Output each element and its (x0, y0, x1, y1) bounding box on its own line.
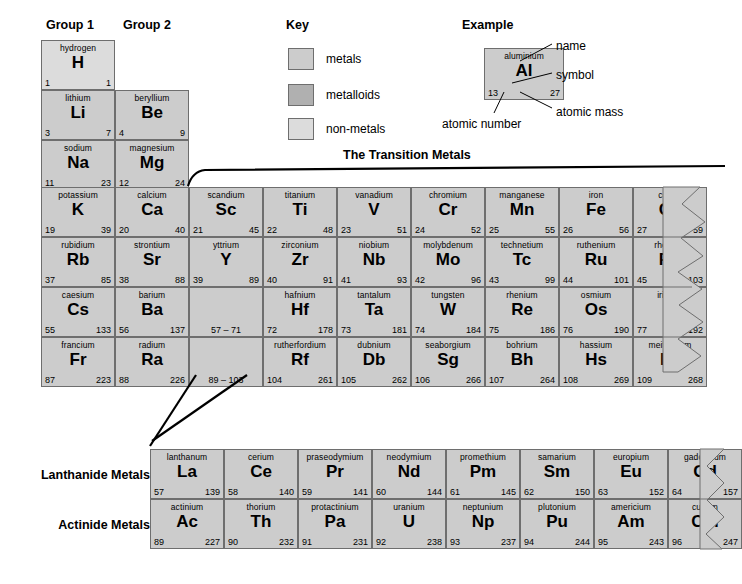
element-cell-Bh: bohriumBh107264 (485, 337, 559, 387)
element-range-label: 57 – 71 (190, 325, 262, 335)
element-name: lithium (42, 93, 114, 103)
element-atomic-number: 95 (598, 537, 608, 547)
element-cell-Li: lithiumLi37 (41, 90, 115, 140)
element-symbol: Ca (116, 200, 188, 220)
element-atomic-mass: 133 (96, 325, 111, 335)
element-atomic-number: 64 (672, 487, 682, 497)
element-atomic-mass: 48 (323, 225, 333, 235)
element-atomic-mass: 243 (649, 537, 664, 547)
element-atomic-mass: 144 (427, 487, 442, 497)
element-symbol: Mn (486, 200, 558, 220)
element-name: europium (595, 452, 667, 462)
element-cell-Sr: strontiumSr3888 (115, 237, 189, 287)
example-element-symbol: Al (485, 61, 563, 81)
element-cell-Sm: samariumSm62150 (520, 449, 594, 499)
element-atomic-mass: 85 (101, 275, 111, 285)
element-cell-Ir: iridiumIr77192 (633, 287, 707, 337)
callout-symbol: symbol (556, 68, 594, 82)
element-atomic-number: 39 (193, 275, 203, 285)
element-atomic-number: 25 (489, 225, 499, 235)
element-atomic-mass: 261 (318, 375, 333, 385)
element-name: calcium (116, 190, 188, 200)
element-atomic-mass: 55 (545, 225, 555, 235)
element-cell-U: uraniumU92238 (372, 499, 446, 549)
element-symbol: Ra (116, 350, 188, 370)
element-atomic-number: 26 (563, 225, 573, 235)
element-symbol: V (338, 200, 410, 220)
element-name: chromium (412, 190, 484, 200)
example-element-name: aluminium (485, 51, 563, 61)
element-name: hydrogen (42, 43, 114, 53)
element-cell-Os: osmiumOs76190 (559, 287, 633, 337)
element-atomic-number: 22 (267, 225, 277, 235)
element-atomic-number: 90 (228, 537, 238, 547)
element-atomic-number: 88 (119, 375, 129, 385)
element-symbol: Sr (116, 250, 188, 270)
element-cell-Hf: hafniumHf72178 (263, 287, 337, 337)
actinide-metals-label: Actinide Metals (0, 518, 150, 532)
element-atomic-mass: 152 (649, 487, 664, 497)
element-atomic-number: 23 (341, 225, 351, 235)
element-symbol: Hs (560, 350, 632, 370)
element-atomic-number: 37 (45, 275, 55, 285)
element-cell-K: potassiumK1939 (41, 187, 115, 237)
element-symbol: Np (447, 512, 519, 532)
element-name: niobium (338, 240, 410, 250)
element-name: praseodymium (299, 452, 371, 462)
element-cell-Db: dubniumDb105262 (337, 337, 411, 387)
example-atomic-mass: 27 (550, 88, 560, 98)
key-swatch-metalloids (288, 84, 314, 106)
element-atomic-mass: 45 (249, 225, 259, 235)
element-name: lanthanum (151, 452, 223, 462)
element-name: technetium (486, 240, 558, 250)
element-atomic-mass: 232 (279, 537, 294, 547)
element-symbol: Sm (521, 462, 593, 482)
element-atomic-number: 42 (415, 275, 425, 285)
element-atomic-mass: 223 (96, 375, 111, 385)
element-atomic-mass: 238 (427, 537, 442, 547)
element-range-cell: 57 – 71 (189, 287, 263, 337)
element-cell-Pu: plutoniumPu94244 (520, 499, 594, 549)
element-name: titanium (264, 190, 336, 200)
element-symbol: Sc (190, 200, 262, 220)
element-atomic-number: 59 (302, 487, 312, 497)
element-name: ruthenium (560, 240, 632, 250)
element-atomic-number: 91 (302, 537, 312, 547)
element-symbol: Eu (595, 462, 667, 482)
element-name: rhodium (634, 240, 706, 250)
element-cell-Ac: actiniumAc89227 (150, 499, 224, 549)
element-symbol: Ta (338, 300, 410, 320)
element-atomic-number: 93 (450, 537, 460, 547)
element-cell-Hs: hassiumHs108269 (559, 337, 633, 387)
callout-atomic-number: atomic number (442, 117, 521, 131)
element-symbol: Am (595, 512, 667, 532)
element-symbol: Bh (486, 350, 558, 370)
element-name: bohrium (486, 340, 558, 350)
element-atomic-mass: 181 (392, 325, 407, 335)
element-name: iridium (634, 290, 706, 300)
element-cell-Fe: ironFe2656 (559, 187, 633, 237)
element-name: strontium (116, 240, 188, 250)
element-atomic-mass: 226 (170, 375, 185, 385)
element-atomic-number: 21 (193, 225, 203, 235)
element-symbol: Zr (264, 250, 336, 270)
element-atomic-number: 108 (563, 375, 578, 385)
element-name: iron (560, 190, 632, 200)
element-atomic-number: 58 (228, 487, 238, 497)
element-cell-Cs: caesiumCs55133 (41, 287, 115, 337)
transition-metals-rule (188, 166, 725, 186)
element-atomic-number: 55 (45, 325, 55, 335)
element-cell-Mo: molybdenumMo4296 (411, 237, 485, 287)
element-range-label: 89 – 103 (190, 375, 262, 385)
element-atomic-number: 62 (524, 487, 534, 497)
element-name: seaborgium (412, 340, 484, 350)
element-name: meitnerium (634, 340, 706, 350)
element-cell-V: vanadiumV2351 (337, 187, 411, 237)
element-name: curium (669, 502, 741, 512)
element-symbol: H (42, 53, 114, 73)
element-atomic-number: 105 (341, 375, 356, 385)
element-cell-W: tungstenW74184 (411, 287, 485, 337)
element-cell-Rf: rutherfordiumRf104261 (263, 337, 337, 387)
element-name: plutonium (521, 502, 593, 512)
